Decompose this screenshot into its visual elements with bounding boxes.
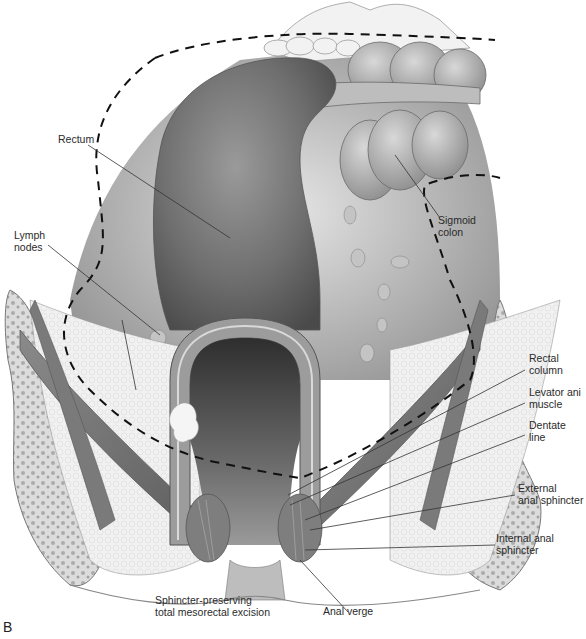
label-levator-ani-muscle: Levator ani muscle <box>529 386 581 410</box>
label-internal-anal-sphincter: Internal anal sphincter <box>496 532 554 556</box>
label-rectal-column: Rectal column <box>529 352 563 376</box>
label-lymph-nodes: Lymph nodes <box>14 229 45 253</box>
anatomy-illustration: Rectum Lymph nodes Sigmoid colon Rectal … <box>0 0 586 639</box>
label-sigmoid-colon: Sigmoid colon <box>438 214 476 238</box>
label-anal-verge: Anal verge <box>323 605 373 617</box>
label-external-anal-sphincter: External anal sphincter <box>518 482 583 506</box>
label-rectum: Rectum <box>58 133 94 145</box>
caption-sphincter-preserving-tme: Sphincter-preserving total mesorectal ex… <box>155 594 270 618</box>
tumor <box>170 403 199 442</box>
label-dentate-line: Dentate line <box>529 419 566 443</box>
panel-letter: B <box>3 619 12 635</box>
